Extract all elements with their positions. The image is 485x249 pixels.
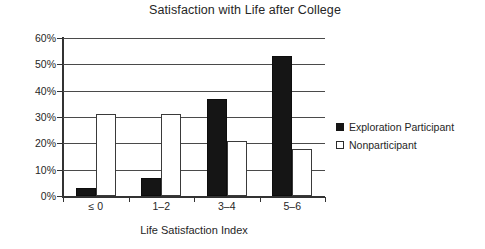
y-axis-tick-label: 20% [35, 137, 56, 149]
gridline [63, 38, 325, 39]
y-axis-tick-label: 40% [35, 85, 56, 97]
bar [207, 99, 227, 196]
y-axis-tick-label: 0% [41, 190, 56, 202]
y-axis-tick-label: 60% [35, 32, 56, 44]
bar-chart-figure: Satisfaction with Life after College 60%… [0, 0, 485, 249]
y-axis-tick-label: 10% [35, 164, 56, 176]
x-axis-title: Life Satisfaction Index [63, 224, 325, 236]
bar [227, 141, 247, 196]
x-axis-tick-label: 1–2 [129, 200, 195, 212]
x-axis-tick-label: ≤ 0 [63, 200, 129, 212]
x-axis-tick-label: 5–6 [260, 200, 326, 212]
hollow-square-icon [336, 141, 344, 149]
filled-square-icon [336, 123, 344, 131]
chart-legend: Exploration ParticipantNonparticipant [336, 118, 484, 154]
plot-area [63, 38, 325, 196]
y-axis-tick-labels: 60%50%40%30%20%10%0% [20, 0, 56, 249]
legend-item-label: Nonparticipant [349, 139, 417, 151]
y-axis-tick-label: 50% [35, 58, 56, 70]
bar [161, 114, 181, 196]
x-axis-tick-label: 3–4 [194, 200, 260, 212]
x-axis-tick-mark [325, 197, 326, 202]
legend-item[interactable]: Exploration Participant [336, 118, 484, 136]
bar [96, 114, 116, 196]
bar [141, 178, 161, 196]
y-axis-tick-label: 30% [35, 111, 56, 123]
bar [292, 149, 312, 196]
legend-item[interactable]: Nonparticipant [336, 136, 484, 154]
bar [76, 188, 96, 196]
bar [272, 56, 292, 196]
chart-title: Satisfaction with Life after College [105, 3, 385, 17]
legend-item-label: Exploration Participant [349, 121, 454, 133]
